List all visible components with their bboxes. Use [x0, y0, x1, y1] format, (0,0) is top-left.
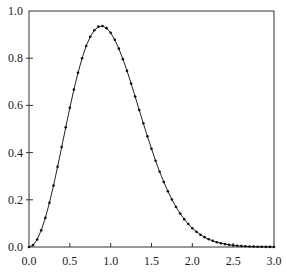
data-markers [28, 25, 276, 249]
data-point-marker [56, 166, 59, 169]
data-point-marker [167, 190, 170, 193]
data-point-marker [171, 198, 174, 201]
data-point-marker [154, 159, 157, 162]
x-tick-label: 0.5 [62, 254, 77, 268]
data-point-marker [179, 212, 182, 215]
y-tick-label: 0.4 [8, 146, 23, 160]
y-tick-label: 0.6 [8, 98, 23, 112]
data-point-marker [203, 236, 206, 239]
data-point-marker [158, 170, 161, 173]
data-point-marker [130, 82, 133, 85]
y-tick-label: 0.2 [8, 193, 23, 207]
y-tick-label: 1.0 [8, 4, 23, 18]
data-point-marker [269, 246, 272, 249]
data-point-marker [224, 243, 227, 246]
data-point-marker [69, 107, 72, 110]
x-tick-label: 1.5 [144, 254, 159, 268]
x-tick-label: 2.0 [185, 254, 200, 268]
data-point-marker [105, 27, 108, 30]
data-point-marker [240, 245, 243, 248]
data-point-marker [216, 241, 219, 244]
data-point-marker [89, 35, 92, 38]
data-point-marker [52, 184, 55, 187]
data-point-marker [101, 25, 104, 28]
data-point-marker [113, 38, 116, 41]
data-point-marker [126, 70, 129, 73]
data-point-marker [48, 202, 51, 205]
data-point-marker [73, 88, 76, 91]
data-point-marker [211, 240, 214, 243]
data-point-marker [97, 25, 100, 28]
data-point-marker [118, 47, 121, 50]
data-point-marker [228, 244, 231, 247]
data-point-marker [265, 246, 268, 249]
data-point-marker [40, 229, 43, 232]
data-point-marker [162, 181, 165, 184]
x-tick-label: 1.0 [103, 254, 118, 268]
data-point-marker [36, 238, 39, 241]
data-point-marker [220, 242, 223, 245]
data-point-marker [122, 58, 125, 61]
data-point-marker [183, 218, 186, 221]
data-point-marker [93, 29, 96, 32]
data-point-marker [175, 206, 178, 209]
data-point-marker [252, 245, 255, 248]
data-point-marker [138, 109, 141, 112]
data-point-marker [207, 238, 210, 241]
data-curve [29, 26, 274, 247]
line-chart: 0.00.20.40.60.81.0 0.00.51.01.52.02.53.0 [0, 0, 287, 274]
data-point-marker [236, 244, 239, 247]
data-point-marker [44, 217, 47, 220]
data-point-marker [142, 122, 145, 125]
data-point-marker [77, 72, 80, 75]
data-point-marker [134, 95, 137, 98]
x-tick-label: 0.0 [22, 254, 37, 268]
data-point-marker [256, 245, 259, 248]
y-tick-label: 0.0 [8, 240, 23, 254]
data-point-marker [32, 244, 35, 247]
data-point-marker [109, 32, 112, 35]
data-point-marker [28, 246, 31, 249]
data-point-marker [191, 227, 194, 230]
data-point-marker [187, 223, 190, 226]
data-point-marker [64, 126, 67, 129]
data-point-marker [60, 146, 63, 149]
x-tick-label: 2.5 [226, 254, 241, 268]
data-point-marker [85, 45, 88, 48]
y-tick-label: 0.8 [8, 51, 23, 65]
data-point-marker [150, 148, 153, 151]
data-point-marker [244, 245, 247, 248]
data-point-marker [146, 135, 149, 138]
x-tick-label: 3.0 [267, 254, 282, 268]
data-point-marker [232, 244, 235, 247]
data-point-marker [195, 230, 198, 233]
data-point-marker [260, 245, 263, 248]
data-point-marker [81, 57, 84, 60]
data-point-marker [273, 246, 276, 249]
data-point-marker [248, 245, 251, 248]
data-point-marker [199, 233, 202, 236]
